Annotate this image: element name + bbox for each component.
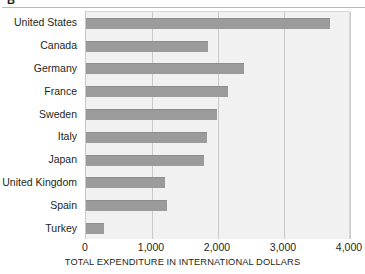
bar bbox=[86, 18, 330, 29]
y-axis-label: Germany bbox=[0, 57, 81, 80]
x-axis-title: TOTAL EXPENDITURE IN INTERNATIONAL DOLLA… bbox=[0, 257, 365, 267]
x-tick-label: 3,000 bbox=[270, 241, 296, 253]
gridline-3000 bbox=[284, 12, 285, 239]
bar bbox=[86, 177, 165, 188]
y-axis-label: Turkey bbox=[0, 216, 81, 239]
bar bbox=[86, 86, 228, 97]
left-page-edge bbox=[0, 0, 2, 274]
y-axis-label: Japan bbox=[0, 148, 81, 171]
y-axis-label: Sweden bbox=[0, 102, 81, 125]
bar bbox=[86, 200, 167, 211]
panel-letter: B bbox=[7, 0, 15, 6]
bar bbox=[86, 41, 208, 52]
bar bbox=[86, 109, 217, 120]
figure: B United StatesCanadaGermanyFranceSweden… bbox=[0, 0, 365, 274]
y-axis-category-labels: United StatesCanadaGermanyFranceSwedenIt… bbox=[0, 11, 81, 239]
bar bbox=[86, 223, 104, 234]
x-axis-tick-labels: 01,0002,0003,0004,000 bbox=[0, 241, 365, 255]
bar bbox=[86, 132, 207, 143]
bar bbox=[86, 155, 204, 166]
top-divider bbox=[0, 7, 365, 8]
x-tick-label: 1,000 bbox=[138, 241, 164, 253]
x-tick-label: 0 bbox=[82, 241, 88, 253]
y-axis-label: Canada bbox=[0, 34, 81, 57]
x-tick-label: 4,000 bbox=[336, 241, 362, 253]
y-axis-label: United Kingdom bbox=[0, 171, 81, 194]
y-axis-label: Spain bbox=[0, 193, 81, 216]
plot-area bbox=[85, 11, 350, 239]
x-tick-label: 2,000 bbox=[204, 241, 230, 253]
y-axis-label: United States bbox=[0, 11, 81, 34]
bar bbox=[86, 63, 244, 74]
gridline-4000 bbox=[350, 12, 351, 239]
gridline-2000 bbox=[218, 12, 219, 239]
y-axis-label: France bbox=[0, 79, 81, 102]
y-axis-label: Italy bbox=[0, 125, 81, 148]
